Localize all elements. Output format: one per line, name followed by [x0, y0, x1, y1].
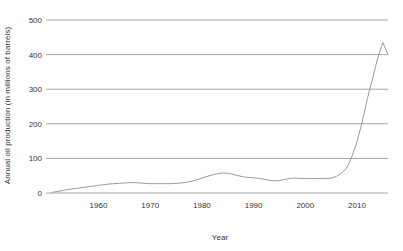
x-axis-tick-label: 2010 [348, 201, 366, 210]
x-axis-tick-labels: 196019701980199020002010 [90, 201, 367, 210]
x-axis-tick-label: 2000 [296, 201, 314, 210]
data-series-line [52, 42, 388, 192]
x-axis-tick-label: 1970 [141, 201, 159, 210]
gridlines-group [46, 20, 388, 193]
chart-plot-area: 0100200300400500 19601970198019902000201… [0, 0, 403, 251]
y-axis-tick-label: 400 [29, 51, 43, 60]
y-axis-tick-label: 200 [29, 120, 43, 129]
y-axis-tick-label: 300 [29, 85, 43, 94]
x-axis-tick-label: 1980 [193, 201, 211, 210]
oil-production-line-chart: Annual oil production (in millions of ba… [0, 0, 403, 251]
x-axis-title: Year [212, 233, 229, 242]
x-axis-tick-label: 1990 [245, 201, 263, 210]
y-axis-tick-labels: 0100200300400500 [29, 16, 43, 198]
y-axis-tick-label: 500 [29, 16, 43, 25]
y-axis-tick-label: 100 [29, 154, 43, 163]
y-axis-tick-label: 0 [38, 189, 43, 198]
x-axis-tick-label: 1960 [90, 201, 108, 210]
x-axis-title-container: Year [52, 226, 388, 244]
